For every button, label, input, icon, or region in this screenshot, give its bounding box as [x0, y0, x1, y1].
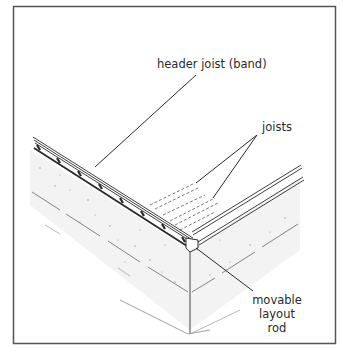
label-joists: joists	[261, 120, 292, 134]
label-layout-rod-line3: rod	[268, 321, 287, 335]
joists-dashed	[150, 183, 218, 230]
label-header-joist: header joist (band)	[157, 57, 267, 71]
label-layout-rod-line1: movable	[252, 293, 302, 307]
leader-joist-2	[213, 135, 257, 198]
leader-joist-1	[196, 135, 257, 183]
framing-diagram: header joist (band) joists movable layou…	[0, 0, 343, 352]
leader-header-joist	[95, 75, 196, 167]
label-layout-rod-line2: layout	[259, 307, 295, 321]
